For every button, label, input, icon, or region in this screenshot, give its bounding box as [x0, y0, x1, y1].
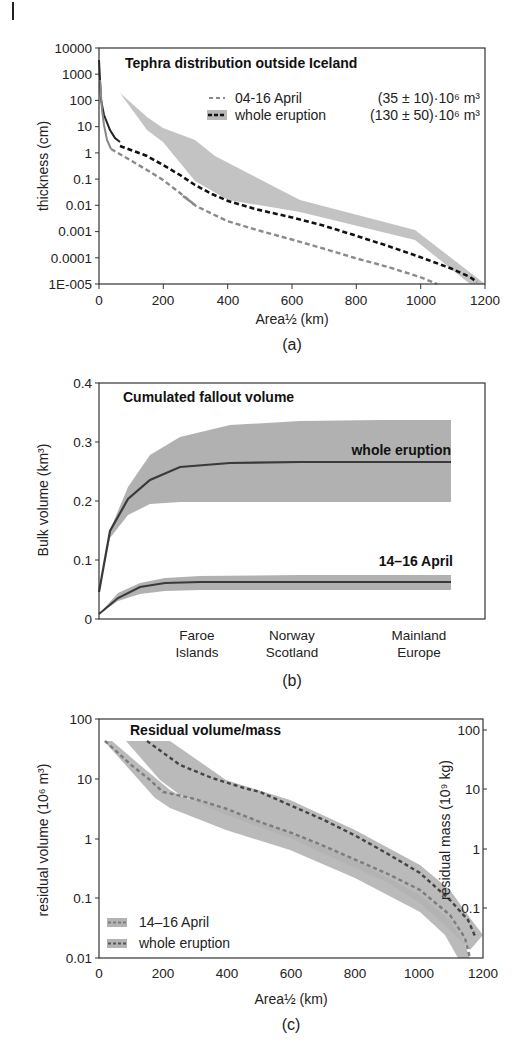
y2-axis-title-c: residual mass (10⁹ kg) [437, 760, 453, 900]
svg-text:10: 10 [77, 119, 92, 134]
y2-tick-labels-c: 100 10 1 0.1 [457, 723, 480, 916]
svg-text:0.1: 0.1 [461, 901, 480, 916]
svg-text:600: 600 [281, 293, 304, 308]
svg-text:Islands: Islands [176, 645, 219, 660]
svg-text:100: 100 [457, 723, 480, 738]
svg-text:1: 1 [472, 842, 480, 857]
panel-a: 10000 1000 100 10 1 0.1 0.01 0.001 0.000… [35, 41, 500, 353]
y-axis-title-c: residual volume (10⁶ m³) [35, 764, 51, 917]
svg-text:0.0001: 0.0001 [51, 251, 92, 266]
svg-text:1: 1 [84, 146, 92, 161]
svg-text:0.1: 0.1 [73, 891, 92, 906]
svg-text:Europe: Europe [397, 645, 441, 660]
svg-text:whole eruption: whole eruption [234, 107, 326, 123]
svg-text:0.001: 0.001 [58, 224, 92, 239]
svg-text:Norway: Norway [269, 628, 315, 643]
series-04-16-april [111, 149, 437, 284]
svg-text:0: 0 [95, 293, 103, 308]
x-axis-title-c: Area½ (km) [254, 991, 327, 1007]
svg-text:200: 200 [152, 293, 175, 308]
panel-c: 100 10 1 0.1 0.01 100 10 1 0.1 residual … [35, 712, 498, 1033]
svg-text:1: 1 [84, 832, 92, 847]
y-tick-labels-b: 0.4 0.3 0.2 0.1 0 [73, 376, 92, 627]
caption-b: (b) [282, 672, 302, 689]
svg-text:10: 10 [77, 772, 92, 787]
svg-text:Mainland: Mainland [392, 628, 447, 643]
panel-b: 0.4 0.3 0.2 0.1 0 Bulk volume (km³) Cumu… [35, 376, 485, 689]
svg-text:0: 0 [95, 966, 103, 981]
plot-title-b: Cumulated fallout volume [123, 389, 294, 405]
svg-text:Scotland: Scotland [266, 645, 319, 660]
legend-a: 04-16 April (35 ± 10)·10⁶ m³ whole erupt… [207, 90, 480, 123]
svg-text:whole eruption: whole eruption [138, 935, 230, 951]
svg-text:0.01: 0.01 [66, 951, 92, 966]
svg-text:Faroe: Faroe [179, 628, 214, 643]
svg-text:0.1: 0.1 [73, 553, 92, 568]
y-axis-title-a: thickness (cm) [35, 121, 51, 211]
svg-text:400: 400 [217, 293, 240, 308]
y-axis-title-b: Bulk volume (km³) [35, 444, 51, 557]
svg-text:0.4: 0.4 [73, 376, 92, 391]
x-axis-ticks-a [99, 284, 485, 289]
svg-text:1200: 1200 [470, 293, 500, 308]
svg-text:100: 100 [69, 93, 92, 108]
figure-canvas: 10000 1000 100 10 1 0.1 0.01 0.001 0.000… [0, 0, 523, 1063]
april-band [99, 575, 451, 614]
svg-text:1000: 1000 [406, 293, 436, 308]
svg-text:100: 100 [69, 712, 92, 727]
svg-text:0.1: 0.1 [73, 172, 92, 187]
svg-text:1200: 1200 [468, 966, 498, 981]
svg-text:1000: 1000 [62, 67, 92, 82]
svg-text:1000: 1000 [404, 966, 434, 981]
svg-text:(130 ± 50)·10⁶ m³: (130 ± 50)·10⁶ m³ [370, 107, 480, 123]
x-tick-labels-c: 0 200 400 600 800 1000 1200 [95, 966, 498, 981]
svg-text:10: 10 [465, 782, 480, 797]
series-label-whole-eruption: whole eruption [350, 442, 451, 458]
series-label-14-16-april: 14–16 April [379, 553, 453, 569]
svg-text:0.3: 0.3 [73, 435, 92, 450]
april-near-source-line [100, 80, 111, 149]
x-region-labels-b: Faroe Islands Norway Scotland Mainland E… [176, 628, 447, 660]
y-tick-labels-c: 100 10 1 0.1 0.01 [66, 712, 92, 966]
caption-a: (a) [282, 336, 302, 353]
svg-text:400: 400 [216, 966, 239, 981]
svg-text:0.2: 0.2 [73, 494, 92, 509]
svg-text:0: 0 [84, 612, 92, 627]
x-tick-labels-a: 0 200 400 600 800 1000 1200 [95, 293, 500, 308]
svg-text:0.01: 0.01 [66, 198, 92, 213]
plot-title-c: Residual volume/mass [130, 722, 281, 738]
series-whole-eruption [120, 146, 477, 282]
svg-text:1E-005: 1E-005 [48, 277, 92, 292]
caption-c: (c) [282, 1016, 301, 1033]
svg-text:(35 ± 10)·10⁶ m³: (35 ± 10)·10⁶ m³ [378, 90, 480, 106]
svg-text:200: 200 [152, 966, 175, 981]
legend-c: 14–16 April whole eruption [107, 914, 230, 951]
svg-text:04-16 April: 04-16 April [235, 90, 302, 106]
svg-text:800: 800 [345, 293, 368, 308]
svg-text:800: 800 [344, 966, 367, 981]
x-axis-title-a: Area½ (km) [255, 311, 328, 327]
plot-title-a: Tephra distribution outside Iceland [125, 55, 357, 71]
y-tick-labels-a: 10000 1000 100 10 1 0.1 0.01 0.001 0.000… [48, 41, 92, 292]
svg-text:600: 600 [280, 966, 303, 981]
svg-text:10000: 10000 [54, 41, 92, 56]
svg-text:14–16 April: 14–16 April [139, 914, 209, 930]
